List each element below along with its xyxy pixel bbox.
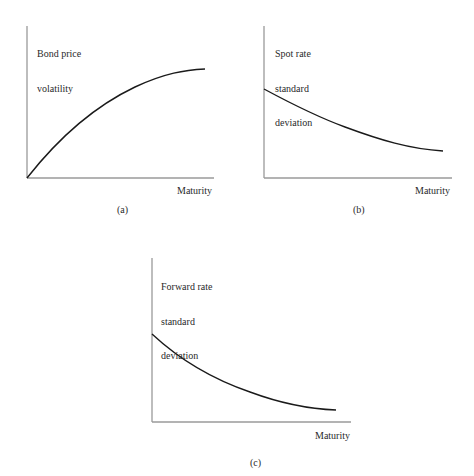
chart-b-ylabel-line: deviation: [275, 117, 312, 129]
chart-a-caption: (a): [117, 204, 128, 216]
chart-a-x-axis-label: Maturity: [177, 185, 212, 197]
chart-c-y-axis-label: Forward rate standard deviation: [161, 258, 212, 373]
chart-b-ylabel-line: Spot rate: [275, 48, 312, 60]
chart-b-caption: (b): [353, 204, 365, 216]
chart-b-x-axis-label: Maturity: [415, 185, 450, 197]
chart-a-ylabel-line: volatility: [37, 83, 81, 95]
chart-a-ylabel-line: Bond price: [37, 48, 81, 60]
chart-c-caption: (c): [250, 457, 261, 469]
chart-c-ylabel-line: Forward rate: [161, 281, 212, 293]
chart-b-ylabel-line: standard: [275, 83, 312, 95]
chart-c-x-axis-label: Maturity: [315, 430, 350, 442]
chart-c-ylabel-line: deviation: [161, 350, 212, 362]
chart-a-y-axis-label: Bond price volatility: [37, 25, 81, 106]
chart-b-y-axis-label: Spot rate standard deviation: [275, 25, 312, 140]
chart-c-ylabel-line: standard: [161, 316, 212, 328]
